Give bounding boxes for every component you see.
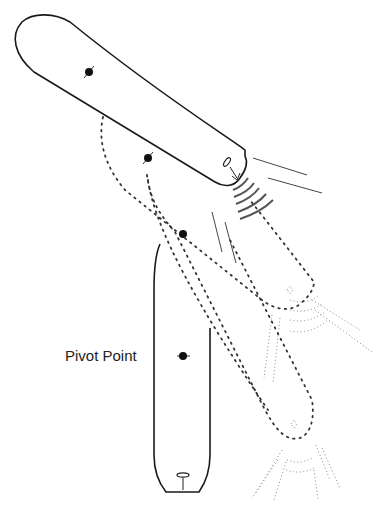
pivot-dot-ghost-1 (143, 152, 153, 164)
thruster-icon-start (222, 157, 240, 180)
hull-start (15, 15, 246, 186)
hull-ghost-2 (147, 175, 313, 439)
pivot-point-label: Pivot Point (65, 347, 137, 364)
thruster-icon-end (177, 473, 189, 490)
thruster-wash (233, 178, 273, 219)
hull-ghost-1 (101, 117, 314, 309)
pivot-dot-ghost-2 (179, 230, 187, 238)
ghost-wash-2 (252, 420, 340, 500)
ghost-wash-1 (264, 286, 372, 384)
hull-end (154, 244, 210, 492)
diagram-canvas: Pivot Point (0, 0, 385, 508)
motion-lines (212, 158, 322, 263)
pivot-dot-start (84, 66, 94, 78)
pivot-dot-end (177, 352, 190, 360)
rotation-diagram (0, 0, 385, 508)
